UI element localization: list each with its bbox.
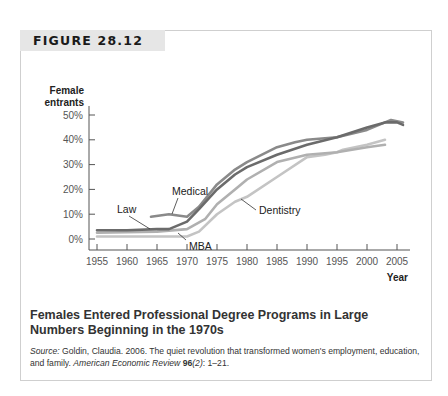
x-tick-label: 1965 bbox=[146, 256, 169, 267]
x-tick-label: 2000 bbox=[356, 256, 379, 267]
line-chart: 0%10%20%30%40%50%19551960196519701975198… bbox=[0, 0, 448, 300]
y-tick-label: 40% bbox=[63, 134, 83, 145]
series-line-medical bbox=[151, 120, 403, 217]
source-pages: : 1–21. bbox=[203, 358, 229, 368]
x-tick-label: 1960 bbox=[116, 256, 139, 267]
annotation-leader bbox=[241, 199, 256, 210]
x-tick-label: 1995 bbox=[326, 256, 349, 267]
x-tick-label: 1985 bbox=[266, 256, 289, 267]
source-volume: 96 bbox=[183, 358, 193, 368]
chart-series bbox=[97, 120, 403, 237]
source-journal: American Economic Review bbox=[73, 358, 180, 368]
x-tick-label: 1980 bbox=[236, 256, 259, 267]
x-axis-title: Year bbox=[387, 272, 408, 283]
series-label-law: Law bbox=[117, 203, 137, 215]
figure-caption-title: Females Entered Professional Degree Prog… bbox=[30, 308, 420, 338]
y-tick-label: 0% bbox=[69, 234, 84, 245]
series-label-dentistry: Dentistry bbox=[259, 204, 301, 216]
y-tick-label: 10% bbox=[63, 209, 83, 220]
annotation-leader bbox=[129, 216, 150, 229]
source-prefix: Source: bbox=[30, 346, 60, 356]
x-tick-label: 1955 bbox=[86, 256, 109, 267]
x-tick-label: 1970 bbox=[176, 256, 199, 267]
x-tick-label: 1990 bbox=[296, 256, 319, 267]
x-tick-label: 2005 bbox=[386, 256, 409, 267]
y-tick-label: 20% bbox=[63, 184, 83, 195]
figure-source: Source: Goldin, Claudia. 2006. The quiet… bbox=[30, 345, 430, 369]
series-label-medical: Medical bbox=[172, 185, 208, 197]
annotation-leader bbox=[172, 198, 178, 214]
y-tick-label: 30% bbox=[63, 159, 83, 170]
y-tick-label: 50% bbox=[63, 110, 83, 121]
series-label-mba: MBA bbox=[189, 240, 212, 252]
chart-axes: 0%10%20%30%40%50%19551960196519701975198… bbox=[45, 85, 410, 283]
source-issue: (2) bbox=[192, 358, 203, 368]
series-line-mba bbox=[97, 145, 385, 233]
series-line-dentistry bbox=[97, 140, 385, 237]
y-axis-title: entrants bbox=[45, 97, 85, 108]
x-tick-label: 1975 bbox=[206, 256, 229, 267]
y-axis-title: Female bbox=[50, 85, 85, 96]
